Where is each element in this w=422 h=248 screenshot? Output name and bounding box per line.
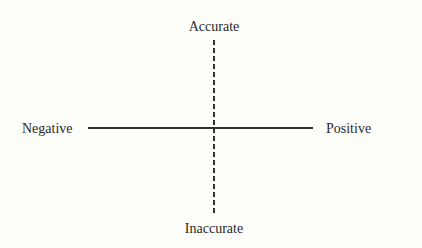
axis-label-inaccurate: Inaccurate — [0, 222, 422, 236]
axis-label-negative: Negative — [22, 122, 73, 136]
axis-label-positive: Positive — [326, 122, 371, 136]
axis-label-accurate: Accurate — [0, 20, 422, 34]
quadrant-diagram: Accurate Inaccurate Negative Positive — [0, 0, 422, 248]
